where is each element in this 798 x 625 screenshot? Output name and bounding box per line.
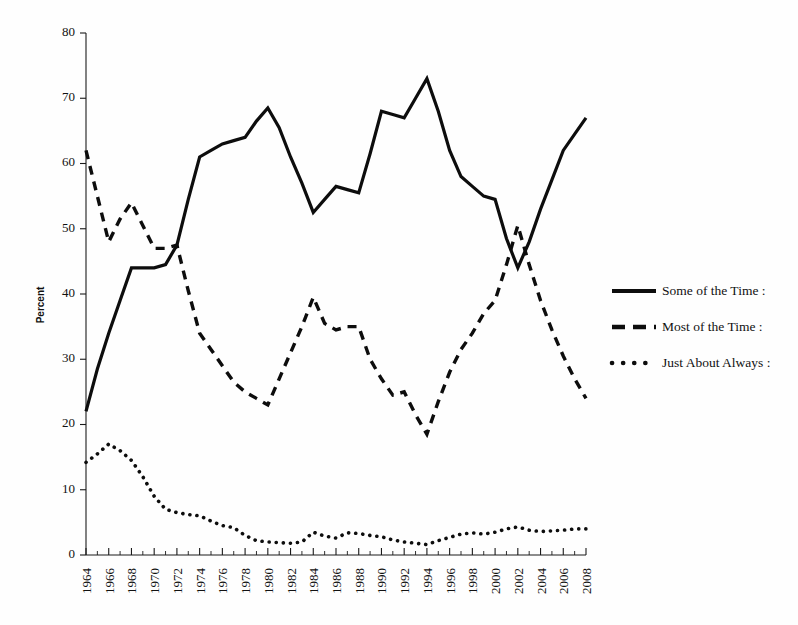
- y-tick-label: 20: [62, 415, 75, 430]
- x-tick-label: 1990: [374, 568, 389, 594]
- x-axis: 1964196619681970197219741976197819801982…: [79, 548, 594, 594]
- y-tick-label: 60: [62, 154, 75, 169]
- x-tick-label: 1984: [306, 568, 321, 595]
- x-tick-label: 1974: [193, 568, 208, 595]
- x-tick-label: 2000: [488, 568, 503, 594]
- y-tick-label: 0: [69, 546, 76, 561]
- legend-label: Just About Always :: [662, 355, 770, 370]
- y-tick-label: 70: [62, 89, 75, 104]
- x-tick-label: 1964: [79, 568, 94, 595]
- x-tick-label: 1980: [261, 568, 276, 594]
- y-tick-label: 10: [62, 481, 75, 496]
- x-tick-label: 1966: [102, 568, 117, 595]
- series-line-dotted: [86, 444, 586, 544]
- y-axis-title: Percent: [35, 286, 46, 323]
- x-tick-label: 1970: [147, 568, 162, 594]
- series-lines: [86, 79, 586, 545]
- x-tick-label: 1978: [238, 568, 253, 594]
- x-tick-label: 1988: [352, 568, 367, 594]
- x-tick-label: 1968: [124, 568, 139, 594]
- x-tick-label: 1992: [397, 568, 412, 594]
- y-tick-label: 30: [62, 350, 75, 365]
- x-tick-label: 2008: [579, 568, 594, 594]
- chart-page: 01020304050607080 1964196619681970197219…: [0, 0, 798, 625]
- line-chart: 01020304050607080 1964196619681970197219…: [0, 0, 798, 625]
- x-tick-label: 1996: [443, 568, 458, 595]
- x-tick-label: 1986: [329, 568, 344, 595]
- legend-label: Some of the Time :: [662, 283, 766, 298]
- y-tick-label: 40: [62, 285, 75, 300]
- y-axis: 01020304050607080: [62, 24, 86, 561]
- legend-label: Most of the Time :: [662, 319, 763, 334]
- x-tick-label: 2004: [534, 568, 549, 595]
- x-tick-label: 1982: [284, 568, 299, 594]
- series-line-dashed: [86, 150, 586, 434]
- x-tick-label: 2006: [556, 568, 571, 595]
- x-tick-label: 1976: [215, 568, 230, 595]
- chart-legend: Some of the Time :Most of the Time :Just…: [612, 283, 770, 370]
- x-tick-label: 1994: [420, 568, 435, 595]
- x-tick-label: 2002: [511, 568, 526, 594]
- y-tick-label: 50: [62, 220, 75, 235]
- x-tick-label: 1998: [465, 568, 480, 594]
- y-tick-label: 80: [62, 24, 75, 39]
- x-tick-label: 1972: [170, 568, 185, 594]
